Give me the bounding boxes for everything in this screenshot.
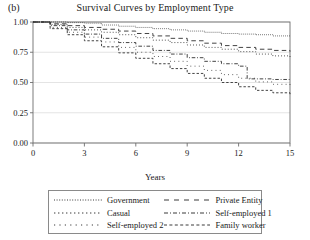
svg-text:0.25: 0.25 [13,108,28,118]
svg-text:12: 12 [234,148,243,158]
svg-text:0.75: 0.75 [13,47,28,57]
legend-label-government: Government [107,194,163,207]
legend-swatch-self-employed-2 [53,219,107,232]
legend-label-family-worker: Family worker [215,219,271,232]
legend-swatch-private-entity [163,194,215,207]
legend-label-self-employed-2: Self-employed 2 [107,219,163,232]
survival-curves-svg: 0.000.250.500.751.0003691215 [0,16,310,166]
svg-text:3: 3 [82,148,86,158]
legend-swatch-government [53,194,107,207]
chart-legend: Government Private Entity Casual Self-em… [48,190,262,234]
svg-text:0.00: 0.00 [13,138,28,148]
chart-title: Survival Curves by Employment Type [0,2,310,13]
svg-text:15: 15 [286,148,295,158]
plot-area: 0.000.250.500.751.0003691215 [0,16,310,166]
legend-label-casual: Casual [107,207,163,220]
svg-text:6: 6 [134,148,138,158]
svg-text:0.50: 0.50 [13,77,28,87]
svg-text:0: 0 [31,148,35,158]
svg-text:1.00: 1.00 [13,17,28,27]
legend-label-private-entity: Private Entity [215,194,271,207]
legend-swatch-self-employed-1 [163,207,215,220]
legend-grid: Government Private Entity Casual Self-em… [53,194,257,232]
x-axis-label: Years [0,172,310,182]
svg-text:9: 9 [185,148,189,158]
legend-swatch-casual [53,207,107,220]
legend-label-self-employed-1: Self-employed 1 [215,207,271,220]
legend-swatch-family-worker [163,219,215,232]
